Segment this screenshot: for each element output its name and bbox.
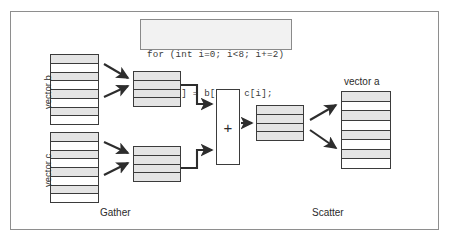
gathered-b-cell-3 (134, 98, 180, 106)
vector-b-cell-0 (51, 55, 98, 64)
vector-a-cell-3 (342, 121, 390, 131)
vector-b-cell-3 (51, 81, 98, 90)
vector-c-cell-2 (51, 151, 98, 160)
gathered-c-cell-0 (134, 147, 180, 156)
vector-b-block (50, 54, 99, 125)
result-cell-3 (257, 132, 303, 140)
vector-a-cell-7 (342, 159, 390, 168)
gathered-c-cell-1 (134, 156, 180, 165)
gathered-c-cell-3 (134, 173, 180, 181)
gathered-c-block (133, 146, 181, 182)
vector-c-cell-1 (51, 142, 98, 151)
vector-c-cell-6 (51, 186, 98, 195)
vector-b-cell-1 (51, 64, 98, 73)
gathered-b-block (133, 71, 181, 107)
vector-c-cell-3 (51, 159, 98, 168)
gathered-b-cell-2 (134, 90, 180, 99)
vector-b-cell-6 (51, 108, 98, 117)
result-cell-0 (257, 106, 303, 115)
vector-b-cell-5 (51, 99, 98, 108)
plus-operator-label: + (224, 119, 233, 136)
gathered-b-cell-1 (134, 81, 180, 90)
gathered-b-cell-0 (134, 72, 180, 81)
vector-b-label: vector b (42, 75, 53, 109)
vector-a-block (341, 91, 391, 169)
vector-c-cell-0 (51, 133, 98, 142)
vector-b-cell-4 (51, 90, 98, 99)
vector-a-cell-0 (342, 92, 390, 102)
vector-c-cell-7 (51, 194, 98, 202)
vector-a-cell-4 (342, 131, 390, 141)
result-block (256, 105, 304, 141)
result-cell-1 (257, 115, 303, 124)
vector-c-cell-5 (51, 177, 98, 186)
vector-a-cell-5 (342, 140, 390, 150)
code-line-1: for (int i=0; i<8; i+=2) (147, 48, 291, 61)
vector-a-cell-2 (342, 111, 390, 121)
scatter-label: Scatter (312, 207, 344, 218)
vector-b-cell-7 (51, 116, 98, 124)
vector-a-cell-6 (342, 150, 390, 160)
adder-block: + (216, 89, 240, 165)
vector-b-cell-2 (51, 73, 98, 82)
vector-c-cell-4 (51, 168, 98, 177)
figure-canvas: for (int i=0; i<8; i+=2) a[i] = b[i] + c… (0, 0, 453, 248)
vector-c-label: vector c (42, 154, 53, 187)
result-cell-2 (257, 124, 303, 133)
gathered-c-cell-2 (134, 165, 180, 174)
code-listing-box: for (int i=0; i<8; i+=2) a[i] = b[i] + c… (140, 19, 292, 50)
vector-a-label: vector a (344, 76, 380, 87)
vector-a-cell-1 (342, 102, 390, 112)
vector-c-block (50, 132, 99, 203)
gather-label: Gather (100, 207, 131, 218)
